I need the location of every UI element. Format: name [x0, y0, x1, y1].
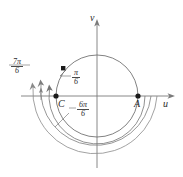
- v-axis-label: v: [90, 13, 94, 23]
- angle-6pi-6-denominator: 6: [77, 109, 89, 118]
- figure-canvas: [0, 0, 183, 177]
- angle-6pi-6-numerator: 6π: [77, 101, 89, 109]
- leader-6pi6: [55, 113, 69, 127]
- angle-7pi-6-numerator: 7π: [11, 58, 23, 66]
- angle-pi-6-numerator: π: [72, 69, 80, 77]
- u-axis-label: u: [163, 99, 168, 109]
- angle-label-7pi-6: 7π 6: [11, 58, 23, 76]
- leader-pi6: [60, 70, 66, 76]
- spiral-arc-middle: [41, 84, 151, 145]
- angle-pi-6-denominator: 6: [72, 77, 80, 86]
- point-a-label: A: [134, 99, 140, 109]
- square-marker: [61, 66, 65, 70]
- angle-7pi-6-denominator: 6: [11, 66, 23, 75]
- angle-label-6pi-6: 6π 6: [77, 101, 89, 119]
- math-figure: v u A C 7π 6 π 6 6π 6: [0, 0, 183, 177]
- point-c-label: C: [58, 99, 65, 109]
- angle-label-pi-6: π 6: [72, 69, 80, 87]
